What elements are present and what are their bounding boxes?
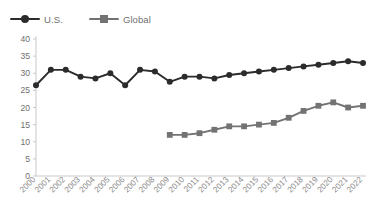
circle-marker-icon[interactable]	[92, 75, 98, 81]
x-axis: 2000200120022003200420052006200720082009…	[18, 175, 366, 195]
square-marker-icon[interactable]	[271, 120, 277, 126]
square-marker-icon[interactable]	[167, 132, 173, 138]
circle-marker-icon[interactable]	[33, 82, 39, 88]
y-axis-tick-label: 5	[25, 154, 30, 164]
x-axis-tick-label: 2009	[152, 175, 172, 195]
x-axis-tick-label: 2021	[330, 175, 350, 195]
x-axis-tick-label: 2001	[33, 175, 53, 195]
series-line-global	[170, 102, 363, 135]
y-axis-tick-label: 20	[20, 103, 30, 113]
square-marker-icon[interactable]	[211, 127, 217, 133]
square-marker-icon[interactable]	[182, 132, 188, 138]
x-axis-tick-label: 2014	[226, 175, 246, 195]
square-marker-icon[interactable]	[316, 103, 322, 109]
square-marker-icon[interactable]	[360, 103, 366, 109]
line-chart: U.S. Global 0510152025303540 20002001200…	[0, 0, 372, 201]
x-axis-tick-label: 2018	[286, 175, 306, 195]
y-axis-tick-label: 25	[20, 85, 30, 95]
x-axis-tick-label: 2012	[197, 175, 217, 195]
square-marker-icon[interactable]	[256, 122, 262, 128]
series-line-us	[36, 61, 363, 85]
circle-marker-icon[interactable]	[286, 65, 292, 71]
x-axis-tick-label: 2004	[78, 175, 98, 195]
circle-marker-icon[interactable]	[197, 74, 203, 80]
x-axis-tick-label: 2015	[241, 175, 261, 195]
square-marker-icon[interactable]	[330, 99, 336, 105]
circle-marker-icon[interactable]	[63, 67, 69, 73]
circle-marker-icon[interactable]	[315, 62, 321, 68]
circle-marker-icon[interactable]	[345, 58, 351, 64]
circle-marker-icon[interactable]	[271, 67, 277, 73]
plot-svg: 0510152025303540 20002001200220032004200…	[0, 0, 372, 201]
square-marker-icon[interactable]	[345, 105, 351, 111]
data-series-group	[33, 58, 366, 138]
circle-marker-icon[interactable]	[301, 63, 307, 69]
circle-marker-icon[interactable]	[152, 69, 158, 75]
x-axis-tick-label: 2016	[256, 175, 276, 195]
circle-marker-icon[interactable]	[360, 60, 366, 66]
x-axis-tick-label: 2006	[107, 175, 127, 195]
x-axis-tick-label: 2003	[63, 175, 83, 195]
circle-marker-icon[interactable]	[167, 79, 173, 85]
x-axis-tick-label: 2002	[48, 175, 68, 195]
x-axis-tick-label: 2020	[315, 175, 335, 195]
circle-marker-icon[interactable]	[137, 67, 143, 73]
x-axis-tick-label: 2000	[18, 175, 38, 195]
x-axis-tick-label: 2008	[137, 175, 157, 195]
x-axis-tick-label: 2010	[167, 175, 187, 195]
circle-marker-icon[interactable]	[330, 60, 336, 66]
y-axis-tick-label: 35	[20, 51, 30, 61]
circle-marker-icon[interactable]	[78, 74, 84, 80]
y-axis-tick-label: 10	[20, 137, 30, 147]
x-axis-tick-label: 2019	[301, 175, 321, 195]
y-axis-tick-label: 40	[20, 34, 30, 44]
y-axis: 0510152025303540	[20, 34, 36, 181]
square-marker-icon[interactable]	[286, 115, 292, 121]
x-axis-tick-label: 2007	[122, 175, 142, 195]
square-marker-icon[interactable]	[197, 130, 203, 136]
circle-marker-icon[interactable]	[122, 82, 128, 88]
x-axis-tick-label: 2013	[211, 175, 231, 195]
x-axis-tick-label: 2022	[345, 175, 365, 195]
x-axis-tick-label: 2017	[271, 175, 291, 195]
square-marker-icon[interactable]	[241, 123, 247, 129]
circle-marker-icon[interactable]	[226, 72, 232, 78]
y-axis-tick-label: 15	[20, 120, 30, 130]
square-marker-icon[interactable]	[226, 123, 232, 129]
circle-marker-icon[interactable]	[48, 67, 54, 73]
x-axis-tick-label: 2005	[92, 175, 112, 195]
y-axis-tick-label: 30	[20, 68, 30, 78]
circle-marker-icon[interactable]	[182, 74, 188, 80]
circle-marker-icon[interactable]	[241, 70, 247, 76]
plot-area: 0510152025303540 20002001200220032004200…	[0, 0, 372, 201]
circle-marker-icon[interactable]	[256, 69, 262, 75]
circle-marker-icon[interactable]	[107, 70, 113, 76]
square-marker-icon[interactable]	[301, 108, 307, 114]
circle-marker-icon[interactable]	[211, 75, 217, 81]
